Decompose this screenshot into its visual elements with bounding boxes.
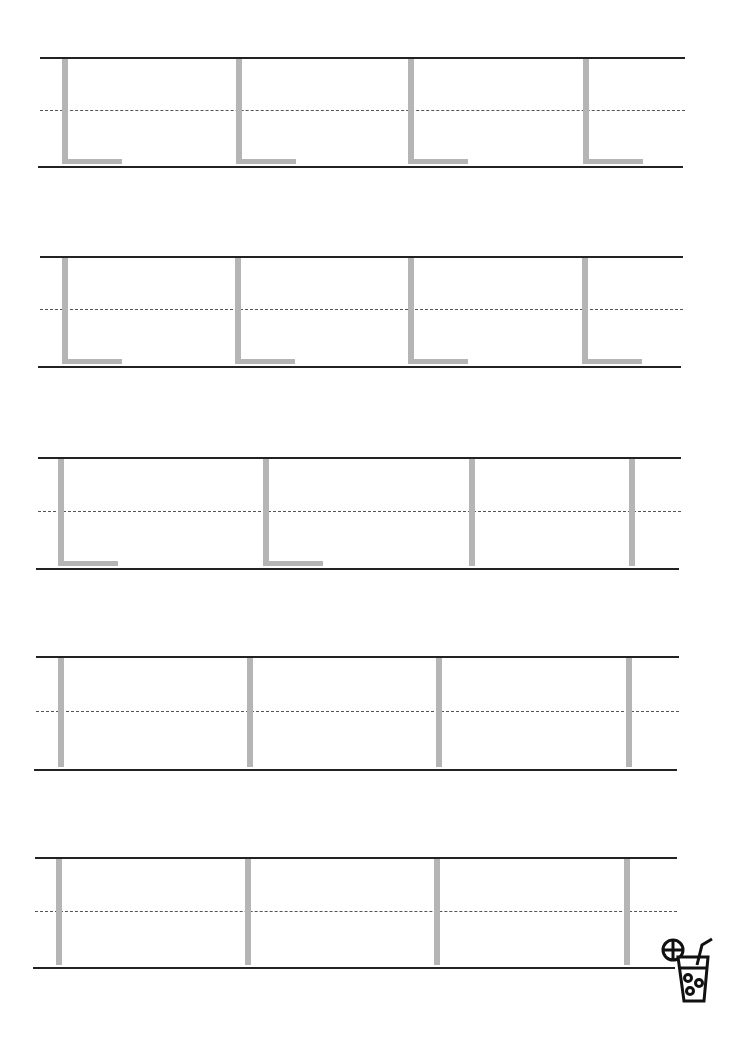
top-guide-line	[38, 457, 681, 459]
trace-letter-uppercase-L	[583, 59, 645, 164]
letter-stem	[56, 859, 62, 965]
dashed-midline	[38, 511, 681, 512]
trace-letter-uppercase-L	[62, 59, 124, 164]
letter-foot	[582, 359, 642, 364]
letter-stem	[583, 59, 589, 164]
letter-foot	[408, 159, 468, 164]
letter-foot	[58, 561, 118, 566]
letter-stem	[469, 459, 475, 566]
letter-stem	[247, 658, 253, 767]
trace-letter-lowercase-l	[247, 658, 309, 767]
letter-stem	[408, 59, 414, 164]
letter-stem	[408, 258, 414, 364]
trace-letter-lowercase-l	[626, 658, 688, 767]
letter-stem	[58, 459, 64, 566]
trace-letter-lowercase-l	[469, 459, 531, 566]
top-guide-line	[36, 656, 679, 658]
letter-stem	[236, 59, 242, 164]
letter-stem	[624, 859, 630, 965]
letter-foot	[235, 359, 295, 364]
letter-stem	[58, 658, 64, 767]
trace-letter-lowercase-l	[436, 658, 498, 767]
trace-letter-lowercase-l	[434, 859, 496, 965]
bottom-guide-line	[38, 166, 683, 168]
trace-letter-uppercase-L	[263, 459, 325, 566]
letter-stem	[62, 258, 68, 364]
trace-letter-lowercase-l	[56, 859, 118, 965]
top-guide-line	[35, 857, 677, 859]
trace-letter-uppercase-L	[408, 258, 470, 364]
letter-stem	[245, 859, 251, 965]
letter-stem	[263, 459, 269, 566]
bottom-guide-line	[34, 769, 677, 771]
trace-letter-uppercase-L	[408, 59, 470, 164]
bottom-guide-line	[36, 568, 679, 570]
letter-stem	[629, 459, 635, 566]
letter-stem	[235, 258, 241, 364]
dashed-midline	[36, 711, 679, 712]
letter-foot	[408, 359, 468, 364]
trace-letter-uppercase-L	[62, 258, 124, 364]
letter-stem	[582, 258, 588, 364]
letter-foot	[236, 159, 296, 164]
letter-stem	[62, 59, 68, 164]
dashed-midline	[35, 911, 677, 912]
letter-stem	[434, 859, 440, 965]
trace-letter-lowercase-l	[629, 459, 691, 566]
bottom-guide-line	[38, 366, 681, 368]
letter-foot	[62, 159, 122, 164]
drink-glass-icon	[660, 935, 720, 1010]
letter-stem	[626, 658, 632, 767]
trace-letter-uppercase-L	[582, 258, 644, 364]
trace-letter-lowercase-l	[245, 859, 307, 965]
letter-foot	[62, 359, 122, 364]
trace-letter-uppercase-L	[58, 459, 120, 566]
bottom-guide-line	[33, 967, 675, 969]
letter-foot	[263, 561, 323, 566]
trace-letter-uppercase-L	[235, 258, 297, 364]
trace-letter-uppercase-L	[236, 59, 298, 164]
trace-letter-lowercase-l	[58, 658, 120, 767]
letter-stem	[436, 658, 442, 767]
letter-foot	[583, 159, 643, 164]
